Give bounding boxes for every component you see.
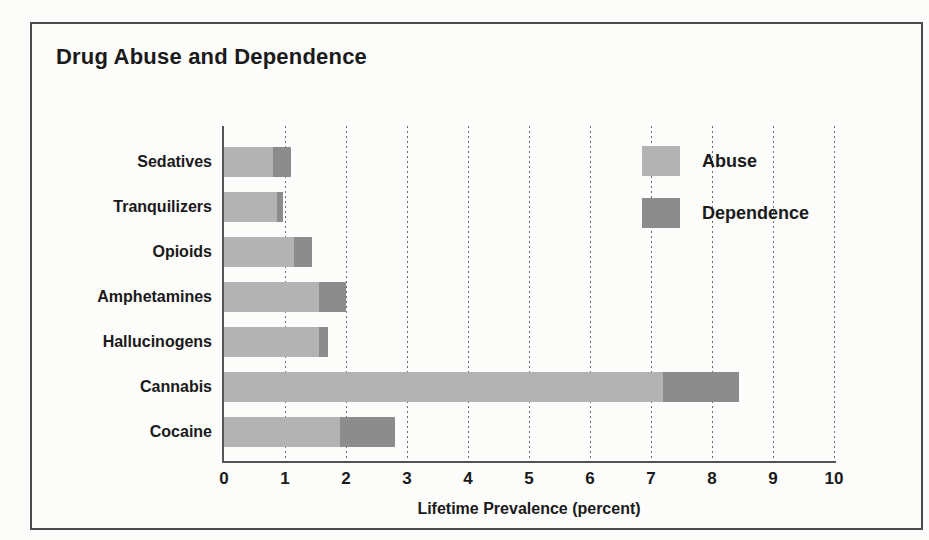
- category-label-sedatives: Sedatives: [137, 153, 212, 171]
- bar-segment-abuse[interactable]: [224, 237, 294, 267]
- x-axis-title: Lifetime Prevalence (percent): [417, 500, 640, 518]
- bar-segment-dependence[interactable]: [277, 192, 283, 222]
- bar-segment-dependence[interactable]: [340, 417, 395, 447]
- chart-title: Drug Abuse and Dependence: [56, 44, 367, 70]
- x-axis-line: [222, 461, 836, 463]
- bar-segment-abuse[interactable]: [224, 327, 319, 357]
- category-label-cannabis: Cannabis: [140, 378, 212, 396]
- bar-segment-abuse[interactable]: [224, 192, 277, 222]
- gridline-10: [834, 126, 835, 461]
- bar-segment-dependence[interactable]: [294, 237, 312, 267]
- x-tick-label-0: 0: [219, 469, 228, 489]
- x-tick-label-4: 4: [463, 469, 472, 489]
- category-label-tranquilizers: Tranquilizers: [113, 198, 212, 216]
- legend-item-abuse[interactable]: Abuse: [642, 146, 809, 176]
- bar-segment-dependence[interactable]: [663, 372, 739, 402]
- x-tick-label-6: 6: [585, 469, 594, 489]
- bar-segment-abuse[interactable]: [224, 417, 340, 447]
- x-tick-label-2: 2: [341, 469, 350, 489]
- chart-legend: AbuseDependence: [642, 146, 809, 250]
- bar-segment-dependence[interactable]: [273, 147, 291, 177]
- bar-row[interactable]: Hallucinogens: [224, 327, 834, 357]
- bar-segment-dependence[interactable]: [319, 327, 328, 357]
- legend-swatch-abuse: [642, 146, 680, 176]
- bar-segment-dependence[interactable]: [319, 282, 346, 312]
- category-label-cocaine: Cocaine: [150, 423, 212, 441]
- bar-row[interactable]: Cocaine: [224, 417, 834, 447]
- x-tick-label-5: 5: [524, 469, 533, 489]
- x-tick-label-1: 1: [280, 469, 289, 489]
- legend-swatch-dependence: [642, 198, 680, 228]
- category-label-amphetamines: Amphetamines: [97, 288, 212, 306]
- x-tick-label-8: 8: [707, 469, 716, 489]
- legend-label-dependence: Dependence: [702, 203, 809, 224]
- x-tick-label-7: 7: [646, 469, 655, 489]
- legend-label-abuse: Abuse: [702, 151, 757, 172]
- x-tick-label-10: 10: [825, 469, 844, 489]
- legend-item-dependence[interactable]: Dependence: [642, 198, 809, 228]
- chart-page: Drug Abuse and Dependence SedativesTranq…: [0, 0, 929, 540]
- bar-segment-abuse[interactable]: [224, 282, 319, 312]
- bar-row[interactable]: Amphetamines: [224, 282, 834, 312]
- x-tick-label-3: 3: [402, 469, 411, 489]
- bar-row[interactable]: Cannabis: [224, 372, 834, 402]
- x-tick-label-9: 9: [768, 469, 777, 489]
- bar-segment-abuse[interactable]: [224, 372, 663, 402]
- category-label-hallucinogens: Hallucinogens: [103, 333, 212, 351]
- figure-frame: Drug Abuse and Dependence SedativesTranq…: [30, 22, 923, 530]
- category-label-opioids: Opioids: [152, 243, 212, 261]
- bar-segment-abuse[interactable]: [224, 147, 273, 177]
